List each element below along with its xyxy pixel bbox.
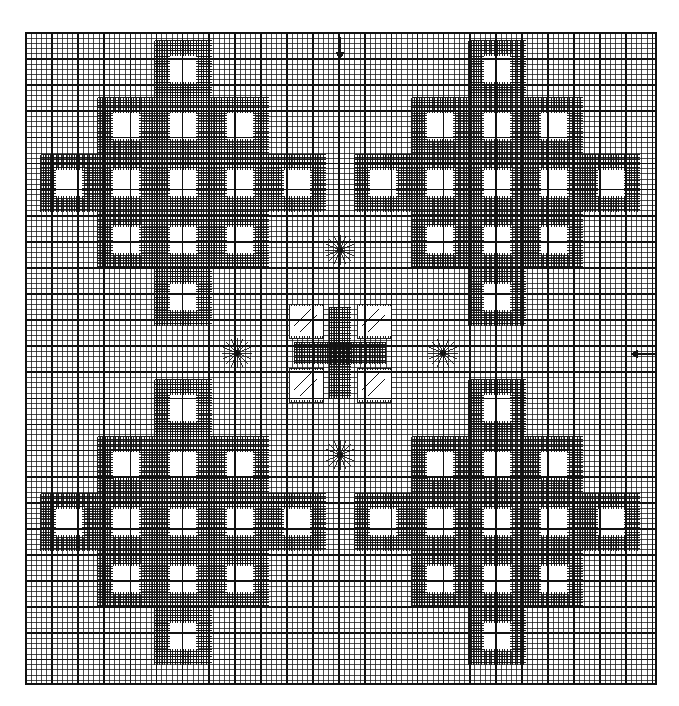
coarse-cell xyxy=(111,225,142,256)
coarse-cell xyxy=(539,168,570,199)
coarse-cell xyxy=(482,225,513,256)
coarse-cell xyxy=(482,507,513,538)
coarse-cell xyxy=(539,507,570,538)
coarse-cell xyxy=(54,507,85,538)
coarse-cell xyxy=(482,564,513,595)
coarse-cell xyxy=(539,564,570,595)
coarse-cell xyxy=(225,564,256,595)
coarse-cell xyxy=(425,225,456,256)
coarse-cell xyxy=(425,168,456,199)
coarse-cell xyxy=(111,168,142,199)
coarse-cell xyxy=(425,564,456,595)
coarse-cell xyxy=(425,507,456,538)
coarse-cell xyxy=(539,225,570,256)
coarse-cell xyxy=(482,393,513,424)
center-cell-ne xyxy=(357,304,391,338)
coarse-cell xyxy=(368,507,399,538)
coarse-cell xyxy=(225,168,256,199)
coarse-cell xyxy=(482,621,513,652)
coarse-cell xyxy=(111,564,142,595)
coarse-cell xyxy=(482,282,513,313)
coarse-cell xyxy=(225,507,256,538)
coarse-cell xyxy=(482,54,513,85)
coarse-cell xyxy=(368,168,399,199)
coarse-cell xyxy=(111,507,142,538)
coarse-cell xyxy=(54,168,85,199)
coarse-cell xyxy=(482,168,513,199)
figure-header-text xyxy=(0,0,679,24)
coarse-cell xyxy=(225,225,256,256)
amr-figure xyxy=(0,0,679,706)
center-cell-nw xyxy=(289,304,323,338)
mesh-canvas xyxy=(0,0,679,706)
